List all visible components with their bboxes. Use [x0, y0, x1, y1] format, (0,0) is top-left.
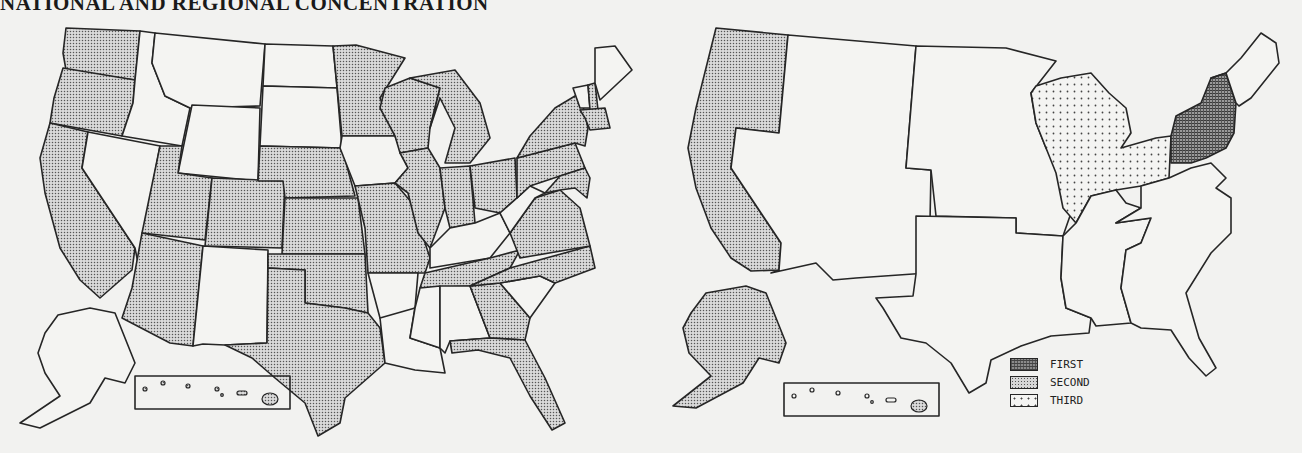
legend-swatch-second: [1010, 376, 1038, 389]
map-legend: FIRST SECOND THIRD: [1010, 355, 1090, 409]
state-nd: [263, 44, 337, 88]
region-pacific-alaska: [673, 286, 786, 408]
state-ks: [282, 198, 365, 254]
hawaii-islands: [792, 388, 927, 412]
legend-item-first: FIRST: [1010, 355, 1090, 373]
right-region-map: [651, 18, 1301, 438]
region-south-atlantic: [1116, 163, 1231, 376]
legend-label-first: FIRST: [1050, 358, 1083, 371]
state-wy: [178, 105, 260, 181]
state-ak: [20, 308, 135, 428]
state-sd: [260, 86, 342, 148]
state-co: [205, 178, 285, 248]
legend-label-third: THIRD: [1050, 394, 1083, 407]
state-me: [595, 46, 632, 100]
figure-title: NATIONAL AND REGIONAL CONCENTRATION: [0, 0, 489, 16]
state-mt: [152, 33, 265, 108]
state-in: [440, 166, 475, 228]
hawaii-islands: [143, 381, 278, 405]
state-fl: [450, 338, 565, 430]
state-nm: [193, 246, 268, 346]
legend-item-third: THIRD: [1010, 391, 1090, 409]
legend-label-second: SECOND: [1050, 376, 1090, 389]
legend-item-second: SECOND: [1010, 373, 1090, 391]
legend-swatch-third: [1010, 394, 1038, 407]
region-middle-atlantic: [1171, 73, 1236, 163]
legend-swatch-first: [1010, 358, 1038, 371]
left-state-map: [0, 18, 650, 438]
